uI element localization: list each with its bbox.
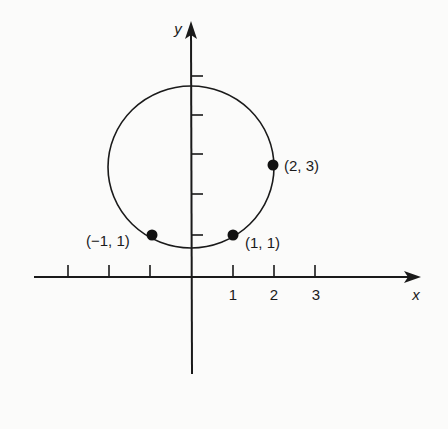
x-axis: 1 2 3 x: [34, 265, 421, 303]
y-axis-label: y: [173, 20, 183, 37]
point-label: (−1, 1): [86, 232, 130, 249]
point-marker-icon: [147, 230, 158, 241]
point-marker-icon: [268, 160, 279, 171]
x-axis-label: x: [411, 286, 420, 303]
point-neg1-1: (−1, 1): [86, 230, 158, 250]
point-label: (2, 3): [284, 157, 319, 174]
y-axis: y: [173, 20, 203, 374]
point-label: (1, 1): [245, 234, 280, 251]
x-tick-label-1: 1: [229, 286, 237, 303]
coordinate-plane-figure: 1 2 3 x y (−1, 1) (1, 1) (2, 3): [0, 0, 448, 429]
point-1-1: (1, 1): [228, 230, 281, 252]
point-marker-icon: [228, 230, 239, 241]
x-tick-label-3: 3: [312, 286, 320, 303]
x-tick-label-2: 2: [270, 286, 278, 303]
point-2-3: (2, 3): [268, 157, 320, 174]
